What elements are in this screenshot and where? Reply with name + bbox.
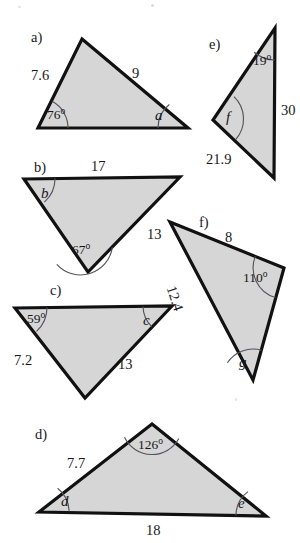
angle-label-f-110-deg: 110o <box>243 271 268 285</box>
degree-symbol: o <box>86 241 91 251</box>
degree-symbol: o <box>61 106 66 116</box>
angle-label-c-59-deg: 59o <box>27 312 45 326</box>
angle-label-e-19-deg: 19o <box>253 54 271 68</box>
part-label-f: f) <box>199 215 209 230</box>
part-label-e: e) <box>209 37 220 52</box>
side-label-b-13: 13 <box>147 227 162 242</box>
angle-label-a-a: a <box>155 108 163 123</box>
side-label-c-7-2: 7.2 <box>14 353 32 368</box>
scan-speck <box>151 4 154 7</box>
side-label-d-18: 18 <box>146 523 161 538</box>
degree-symbol: o <box>41 310 46 320</box>
side-label-e-21-9: 21.9 <box>206 152 231 167</box>
angle-label-d-d: d <box>61 494 69 509</box>
triangle-f <box>170 222 284 380</box>
degree-symbol: o <box>263 269 268 279</box>
side-label-a-7-6: 7.6 <box>31 68 49 83</box>
triangle-f-shape <box>170 222 284 380</box>
side-label-f-8: 8 <box>225 230 232 245</box>
part-label-b: b) <box>34 160 46 175</box>
side-label-e-30: 30 <box>281 103 296 118</box>
scan-speck <box>235 398 237 401</box>
part-label-c: c) <box>50 283 61 298</box>
angle-label-d-126-deg: 126o <box>138 438 163 452</box>
angle-label-d-e: e <box>238 496 245 511</box>
side-label-c-13: 13 <box>118 357 133 372</box>
angle-label-b-67-deg: 67o <box>72 243 90 257</box>
angle-label-b-b: b <box>41 186 49 201</box>
angle-label-c-c: c <box>143 313 150 328</box>
angle-label-e-f: f <box>226 110 230 125</box>
part-label-d: d) <box>35 427 47 442</box>
scan-speck <box>18 6 21 8</box>
geometry-worksheet: a) b) c) d) e) f) 7.6 9 76o a 17 13 b 67… <box>0 0 300 543</box>
part-label-a: a) <box>31 30 42 45</box>
side-label-a-9: 9 <box>132 66 139 81</box>
degree-symbol: o <box>267 52 272 62</box>
side-label-b-17: 17 <box>91 159 106 174</box>
side-label-d-7-7: 7.7 <box>67 456 85 471</box>
degree-symbol: o <box>158 436 163 446</box>
angle-label-a-76-deg: 76o <box>47 108 65 122</box>
angle-label-f-g: g <box>239 355 247 370</box>
